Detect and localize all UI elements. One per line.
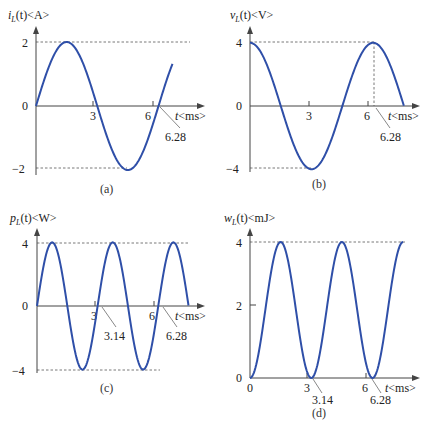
caption-c: (c) xyxy=(100,381,113,395)
xtick-label: 6 xyxy=(362,381,368,395)
ytick-label: 0 xyxy=(22,99,28,113)
y-axis-arrow-icon xyxy=(34,228,40,236)
caption-d: (d) xyxy=(312,406,326,420)
y-axis-arrow-icon xyxy=(247,26,253,34)
chart-b: vL(t)<V> 4 0 −4 3 6 t<ms> 6.28 (b) xyxy=(226,8,420,191)
figure: iL(t)<A> 2 0 −2 3 6 t<ms> 6.28 (a) vL(t)… xyxy=(0,0,426,429)
y-axis-label-d: wL(t)<mJ> xyxy=(224,211,276,227)
x-axis-label-c: t<ms> xyxy=(175,309,206,323)
ytick-label: 2 xyxy=(22,36,28,50)
annotation: 6.28 xyxy=(165,130,186,144)
y-axis-label-a: iL(t)<A> xyxy=(8,8,50,24)
chart-a: iL(t)<A> 2 0 −2 3 6 t<ms> 6.28 (a) xyxy=(8,8,206,196)
annotation: 6.28 xyxy=(380,130,401,144)
chart-c: pL(t)<W> 4 0 −4 3 6 t<ms> 3.14 6.28 (c) xyxy=(9,211,206,395)
x-axis-label-b: t<ms> xyxy=(388,109,419,123)
xtick-label: 6 xyxy=(149,309,155,323)
curve-w-L xyxy=(250,242,403,378)
x-axis-label-a: t<ms> xyxy=(175,109,206,123)
ytick-label: 2 xyxy=(236,299,242,313)
ytick-label: −4 xyxy=(12,364,25,378)
ytick-label: −4 xyxy=(226,162,239,176)
ytick-label: 0 xyxy=(236,99,242,113)
y-axis-arrow-icon xyxy=(33,26,39,34)
y-axis-arrow-icon xyxy=(247,228,253,236)
ytick-label: 4 xyxy=(236,236,242,250)
xtick-label: 6 xyxy=(364,109,370,123)
caption-a: (a) xyxy=(100,182,113,196)
annotation: 3.14 xyxy=(104,329,125,343)
caption-b: (b) xyxy=(312,177,326,191)
annotation: 6.28 xyxy=(370,393,391,407)
chart-d: wL(t)<mJ> 4 2 0 0 3 6 t<ms> 3.14 6.28 (d… xyxy=(224,211,420,420)
annotation: 6.28 xyxy=(166,329,187,343)
y-axis-label-c: pL(t)<W> xyxy=(9,211,57,227)
ytick-label: 4 xyxy=(22,237,28,251)
ytick-label: 0 xyxy=(236,371,242,385)
y-axis-label-b: vL(t)<V> xyxy=(230,8,274,24)
xtick-label: 0 xyxy=(247,381,253,395)
annotation: 3.14 xyxy=(312,393,333,407)
xtick-label: 6 xyxy=(145,109,151,123)
ytick-label: 4 xyxy=(236,36,242,50)
ytick-label: −2 xyxy=(12,162,25,176)
xtick-label: 3 xyxy=(306,109,312,123)
xtick-label: 3 xyxy=(304,381,310,395)
xtick-label: 3 xyxy=(90,109,96,123)
ytick-label: 0 xyxy=(22,299,28,313)
